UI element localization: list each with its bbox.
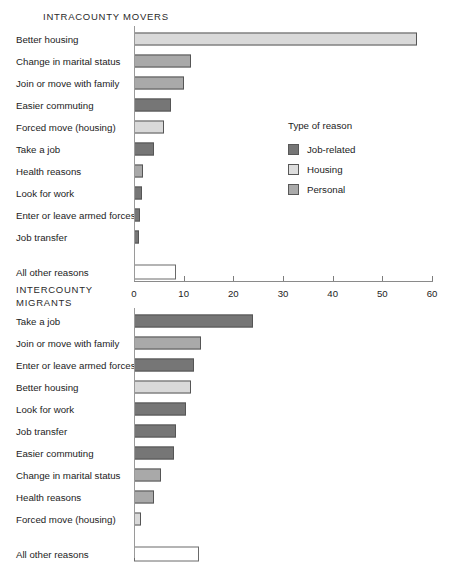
- bar-track: [134, 28, 460, 50]
- bar-row: Enter or leave armed forces: [0, 204, 460, 226]
- x-axis-tick-label: 10: [178, 288, 189, 299]
- bar-row: Easier commuting: [0, 442, 460, 464]
- bar-row: Better housing: [0, 376, 460, 398]
- bar-row-label: All other reasons: [16, 549, 134, 560]
- legend-swatch-personal: [288, 184, 299, 195]
- x-axis-tick: [382, 276, 383, 281]
- bar-track: [134, 420, 460, 442]
- bar-track: [134, 442, 460, 464]
- bar-row-label: Health reasons: [16, 166, 134, 177]
- bar: [134, 265, 176, 280]
- bar: [134, 425, 176, 438]
- bar-row-label: Change in marital status: [16, 56, 134, 67]
- bar: [134, 77, 184, 90]
- x-axis-tick-label: 0: [131, 288, 136, 299]
- x-axis-tick-label: 20: [228, 288, 239, 299]
- bar: [134, 165, 143, 178]
- legend-title: Type of reason: [288, 120, 438, 131]
- legend-item-group: Job-relatedHousingPersonal: [288, 139, 438, 199]
- bar: [134, 187, 142, 200]
- bar-row: Forced move (housing): [0, 508, 460, 530]
- bar-row-label: All other reasons: [16, 267, 134, 278]
- bar-row: All other reasons: [0, 261, 460, 283]
- x-axis-tick: [233, 276, 234, 281]
- bar-row-label: Easier commuting: [16, 100, 134, 111]
- legend-swatch-job: [288, 144, 299, 155]
- bar-row-label: Job transfer: [16, 426, 134, 437]
- bar-row-label: Take a job: [16, 316, 134, 327]
- bar: [134, 469, 161, 482]
- bar-track: [134, 464, 460, 486]
- bar-row: Easier commuting: [0, 94, 460, 116]
- bar-row-label: Look for work: [16, 188, 134, 199]
- bar-row-label: Look for work: [16, 404, 134, 415]
- bar: [134, 513, 141, 526]
- bar-row: Look for work: [0, 398, 460, 420]
- bar-row-label: Take a job: [16, 144, 134, 155]
- bar: [134, 55, 191, 68]
- bar-row: Join or move with family: [0, 72, 460, 94]
- bar-row-label: Enter or leave armed forces: [16, 360, 134, 371]
- bar-track: [134, 226, 460, 248]
- legend-item-label: Housing: [307, 164, 343, 175]
- legend-item: Personal: [288, 179, 438, 199]
- bar-row-label: Join or move with family: [16, 78, 134, 89]
- bar: [134, 99, 171, 112]
- y-axis-baseline-intracounty: [134, 26, 135, 281]
- bar: [134, 547, 199, 562]
- legend: Type of reason Job-relatedHousingPersona…: [288, 120, 438, 199]
- bar-row: Change in marital status: [0, 50, 460, 72]
- bar-track: [134, 94, 460, 116]
- section-title-intracounty-movers: INTRACOUNTY MOVERS: [43, 11, 169, 24]
- bar-row: Job transfer: [0, 226, 460, 248]
- x-axis-tick: [432, 276, 433, 281]
- x-axis-tick-label: 30: [278, 288, 289, 299]
- bar-track: [134, 543, 460, 565]
- bar-row-label: Change in marital status: [16, 470, 134, 481]
- bar: [134, 447, 174, 460]
- bar-row: All other reasons: [0, 543, 460, 565]
- bar-row-label: Better housing: [16, 382, 134, 393]
- y-axis-baseline-intercounty: [134, 308, 135, 558]
- bar-track: [134, 354, 460, 376]
- bar-row: Job transfer: [0, 420, 460, 442]
- bar-track: [134, 376, 460, 398]
- x-axis-tick: [333, 276, 334, 281]
- bar-row-label: Easier commuting: [16, 448, 134, 459]
- section-title-intercounty-migrants: INTERCOUNTY MIGRANTS: [16, 284, 93, 309]
- bar-row: Change in marital status: [0, 464, 460, 486]
- bar: [134, 359, 194, 372]
- legend-item-label: Job-related: [307, 144, 355, 155]
- bar: [134, 337, 201, 350]
- bar-track: [134, 486, 460, 508]
- bar-track: [134, 204, 460, 226]
- legend-item: Job-related: [288, 139, 438, 159]
- bar: [134, 121, 164, 134]
- bar-track: [134, 398, 460, 420]
- bar-row-label: Better housing: [16, 34, 134, 45]
- bar-row-label: Enter or leave armed forces: [16, 210, 134, 221]
- x-axis-tick-label: 60: [427, 288, 438, 299]
- bar-row: Better housing: [0, 28, 460, 50]
- bar-row-label: Join or move with family: [16, 338, 134, 349]
- bar-track: [134, 72, 460, 94]
- bar-row-label: Health reasons: [16, 492, 134, 503]
- bar-track: [134, 508, 460, 530]
- x-axis-tick: [184, 276, 185, 281]
- bar: [134, 381, 191, 394]
- legend-item: Housing: [288, 159, 438, 179]
- x-axis-tick-label: 40: [327, 288, 338, 299]
- bar-track: [134, 50, 460, 72]
- x-axis-tick: [283, 276, 284, 281]
- bar-row: Take a job: [0, 310, 460, 332]
- bar-track: [134, 332, 460, 354]
- chart-panel-intercounty: Take a jobJoin or move with familyEnter …: [0, 308, 460, 559]
- bar-row: Enter or leave armed forces: [0, 354, 460, 376]
- bar-row-label: Forced move (housing): [16, 514, 134, 525]
- legend-item-label: Personal: [307, 184, 345, 195]
- bar-track: [134, 310, 460, 332]
- bar-row: Join or move with family: [0, 332, 460, 354]
- legend-swatch-housing: [288, 164, 299, 175]
- bar: [134, 33, 417, 46]
